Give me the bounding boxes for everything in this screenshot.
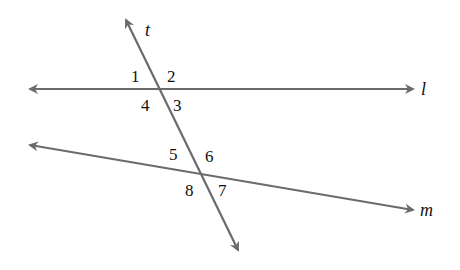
angle-label-3: 3 [173, 96, 182, 115]
angle-label-8: 8 [185, 181, 194, 200]
angle-label-1: 1 [131, 67, 140, 86]
line-label-t: t [145, 20, 151, 40]
line-label-l: l [421, 79, 426, 99]
labels: lmt12345678 [131, 20, 433, 220]
angle-label-4: 4 [141, 96, 150, 115]
line-label-m: m [420, 200, 433, 220]
parallel-lines-diagram: lmt12345678 [0, 0, 460, 270]
line-m [30, 145, 413, 210]
angle-label-7: 7 [218, 181, 227, 200]
line-t [126, 20, 238, 250]
angle-label-5: 5 [169, 145, 178, 164]
lines [30, 20, 413, 250]
diagram-canvas: lmt12345678 [0, 0, 460, 270]
angle-label-6: 6 [205, 147, 214, 166]
angle-label-2: 2 [167, 67, 176, 86]
